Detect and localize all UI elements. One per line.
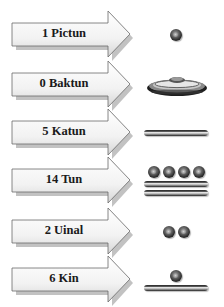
dot-one-icon: [163, 226, 175, 238]
shell-zero-icon: [146, 72, 208, 102]
place-value-row: 14 Tun: [0, 156, 224, 206]
maya-numeral-glyph: [0, 10, 224, 60]
maya-numeral-glyph: [0, 255, 224, 305]
dot-one-icon: [178, 226, 190, 238]
place-value-row: 0 Baktun: [0, 60, 224, 110]
maya-numeral-glyph: [0, 207, 224, 257]
maya-numeral-glyph: [0, 60, 224, 110]
dot-one-icon: [193, 166, 205, 178]
place-value-row: 5 Katun: [0, 108, 224, 158]
place-value-row: 6 Kin: [0, 255, 224, 305]
place-value-row: 2 Uinal: [0, 207, 224, 257]
maya-numeral-glyph: [0, 108, 224, 158]
maya-numeral-glyph: [0, 156, 224, 206]
dot-one-icon: [170, 270, 182, 282]
bar-five-icon: [144, 130, 208, 136]
bar-five-icon: [144, 181, 208, 187]
dot-one-icon: [178, 166, 190, 178]
dot-one-icon: [148, 166, 160, 178]
dot-one-icon: [170, 29, 182, 41]
bar-five-icon: [144, 285, 208, 291]
dot-one-icon: [163, 166, 175, 178]
bar-five-icon: [144, 190, 208, 196]
place-value-row: 1 Pictun: [0, 10, 224, 60]
